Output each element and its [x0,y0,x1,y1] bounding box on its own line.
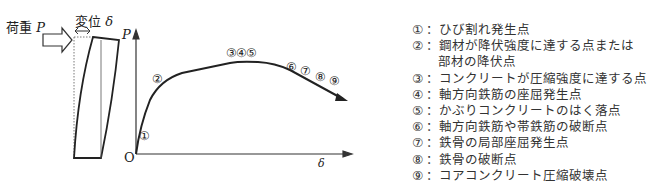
legend-text: 鋼材が降伏強度に達する点または [439,38,634,53]
legend-item: ④：軸方向鉄筋の座屈発生点 [412,87,647,103]
legend-sep: ： [426,22,439,37]
legend-item: ⑨：コアコンクリート圧縮破壊点 [412,168,647,184]
legend-item: ②：鋼材が降伏強度に達する点または [412,38,647,54]
point-9-label: ⑨ [329,74,340,88]
legend-num: ⑨ [412,168,426,184]
legend-item-continued: 部材の降伏点 [412,54,647,70]
legend-sep: ： [426,168,439,183]
legend-text: 軸方向鉄筋の座屈発生点 [439,87,582,102]
legend-text: 鉄骨の破断点 [439,152,517,167]
point-345-label: ③④⑤ [226,46,256,60]
legend-text: かぶりコンクリートのはく落点 [439,103,621,118]
legend-num: ⑥ [412,119,426,135]
disp-symbol: δ [105,14,113,29]
legend-text: 部材の降伏点 [438,54,516,69]
y-axis-label: P [122,27,131,42]
x-axis-label: δ [318,157,325,170]
legend-sep: ： [426,38,439,53]
legend-num: ② [412,38,426,54]
legend-item: ③：コンクリートが圧縮強度に達する点 [412,71,647,87]
legend-sep: ： [426,135,439,150]
legend-item: ⑧：鉄骨の破断点 [412,152,647,168]
legend-text: ひび割れ発生点 [439,22,530,37]
displacement-label: 変位 δ [75,11,113,30]
legend-sep: ： [426,103,439,118]
legend-text: コアコンクリート圧縮破壊点 [439,168,608,183]
load-label: 荷重 P [6,17,45,36]
legend-text: コンクリートが圧縮強度に達する点 [439,71,647,86]
legend-sep: ： [426,152,439,167]
point-2-label: ② [152,72,163,86]
legend-num: ④ [412,87,426,103]
legend: ①：ひび割れ発生点 ②：鋼材が降伏強度に達する点または 部材の降伏点 ③：コンク… [412,22,647,184]
legend-text: 軸方向鉄筋や帯鉄筋の破断点 [439,119,608,134]
legend-sep: ： [426,87,439,102]
legend-sep: ： [426,71,439,86]
deformed-column [74,37,119,158]
disp-text: 変位 [75,14,101,29]
legend-num: ⑧ [412,152,426,168]
legend-num: ③ [412,71,426,87]
legend-item: ⑦：鉄骨の局部座屈発生点 [412,135,647,151]
load-symbol: P [36,20,45,35]
original-position-outline [74,37,93,158]
legend-item: ⑥：軸方向鉄筋や帯鉄筋の破断点 [412,119,647,135]
load-arrow-icon [43,28,72,52]
legend-num: ⑦ [412,135,426,151]
point-6-label: ⑥ [286,60,297,74]
origin-label: O [124,150,135,165]
legend-num: ① [412,22,426,38]
point-8-label: ⑧ [315,70,326,84]
legend-num: ⑤ [412,103,426,119]
legend-item: ⑤：かぶりコンクリートのはく落点 [412,103,647,119]
legend-item: ①：ひび割れ発生点 [412,22,647,38]
point-1-label: ① [139,129,150,143]
point-7-label: ⑦ [300,64,311,78]
legend-text: 鉄骨の局部座屈発生点 [439,135,569,150]
legend-sep: ： [426,119,439,134]
load-text: 荷重 [6,20,32,35]
